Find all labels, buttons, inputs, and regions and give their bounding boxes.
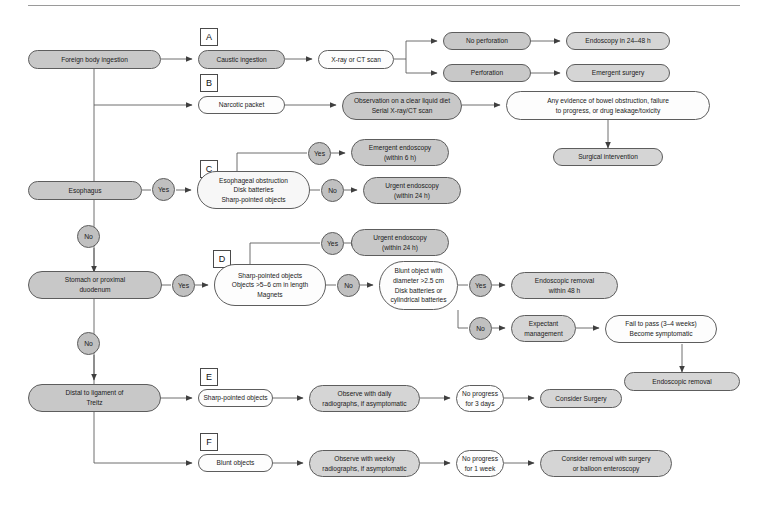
- node-stomach-or-proximal-duodenum[interactable]: Stomach or proximal duodenum: [28, 271, 162, 299]
- node-perforation[interactable]: Perforation: [443, 64, 531, 82]
- decision-esophageal-criteria-no[interactable]: No: [321, 179, 344, 202]
- node-distal-to-ligament-of-treitz[interactable]: Distal to ligament of Treitz: [28, 384, 161, 412]
- top-divider-rule: [28, 5, 740, 6]
- node-endoscopy-24-48h[interactable]: Endoscopy in 24–48 h: [566, 32, 670, 50]
- node-endoscopic-removal-48h[interactable]: Endoscopic removal within 48 h: [511, 272, 618, 299]
- section-tag-e: E: [200, 368, 218, 386]
- node-blunt-objects-distal[interactable]: Blunt objects: [198, 454, 273, 472]
- decision-stomach-criteria-yes[interactable]: Yes: [321, 232, 344, 255]
- decision-stomach-criteria-no[interactable]: No: [337, 274, 360, 297]
- node-fail-to-pass[interactable]: Fail to pass (3–4 weeks) Become symptoma…: [605, 315, 717, 343]
- section-tag-f: F: [200, 433, 218, 451]
- decision-blunt-object-yes[interactable]: Yes: [469, 274, 492, 297]
- node-caustic-ingestion[interactable]: Caustic ingestion: [198, 50, 285, 69]
- node-foreign-body-ingestion[interactable]: Foreign body ingestion: [28, 50, 161, 69]
- node-esophagus[interactable]: Esophagus: [28, 181, 142, 200]
- node-endoscopic-removal[interactable]: Endoscopic removal: [624, 372, 740, 391]
- section-tag-a: A: [200, 28, 218, 46]
- node-bowel-obstruction-evidence[interactable]: Any evidence of bowel obstruction, failu…: [506, 91, 710, 120]
- node-narcotic-packet[interactable]: Narcotic packet: [198, 96, 285, 114]
- node-consider-surgery[interactable]: Consider Surgery: [540, 389, 622, 408]
- node-sharp-pointed-objects-distal[interactable]: Sharp-pointed objects: [198, 389, 273, 407]
- decision-blunt-object-no[interactable]: No: [469, 317, 492, 340]
- node-blunt-object-criteria[interactable]: Blunt object with diameter >2.5 cm Disk …: [379, 261, 458, 310]
- node-urgent-endoscopy-24h-esophagus[interactable]: Urgent endoscopy (within 24 h): [363, 177, 461, 204]
- node-no-perforation[interactable]: No perforation: [443, 32, 531, 50]
- node-no-progress-3-days[interactable]: No progress for 3 days: [456, 385, 504, 412]
- node-urgent-endoscopy-24h-stomach[interactable]: Urgent endoscopy (within 24 h): [351, 229, 449, 256]
- section-tag-b: B: [200, 74, 218, 92]
- node-observe-daily-radiographs[interactable]: Observe with daily radiographs, if asymp…: [309, 385, 420, 412]
- node-surgical-intervention[interactable]: Surgical intervention: [553, 148, 663, 166]
- node-consider-removal-balloon-enteroscopy[interactable]: Consider removal with surgery or balloon…: [540, 450, 672, 477]
- node-esophageal-criteria[interactable]: Esophageal obstruction Disk batteries Sh…: [197, 171, 310, 209]
- decision-stomach-yes[interactable]: Yes: [172, 274, 195, 297]
- decision-esophagus-no[interactable]: No: [77, 225, 100, 248]
- node-stomach-criteria[interactable]: Sharp-pointed objects Objects >5–6 cm in…: [214, 264, 326, 306]
- decision-esophagus-yes[interactable]: Yes: [152, 178, 175, 201]
- decision-stomach-no[interactable]: No: [77, 332, 100, 355]
- node-observation-clear-liquid-diet[interactable]: Observation on a clear liquid diet Seria…: [342, 92, 462, 120]
- node-emergent-endoscopy-6h[interactable]: Emergent endoscopy (within 6 h): [351, 139, 449, 166]
- node-xray-or-ct-scan[interactable]: X-ray or CT scan: [318, 50, 394, 69]
- node-expectant-management[interactable]: Expectant management: [511, 315, 576, 342]
- decision-esophageal-criteria-yes[interactable]: Yes: [308, 142, 331, 165]
- flowchart-canvas: A B C D E F Foreign body ingestion Caust…: [0, 0, 760, 505]
- node-no-progress-1-week[interactable]: No progress for 1 week: [456, 450, 504, 477]
- node-observe-weekly-radiographs[interactable]: Observe with weekly radiographs, if asym…: [309, 450, 420, 477]
- node-emergent-surgery[interactable]: Emergent surgery: [566, 64, 670, 82]
